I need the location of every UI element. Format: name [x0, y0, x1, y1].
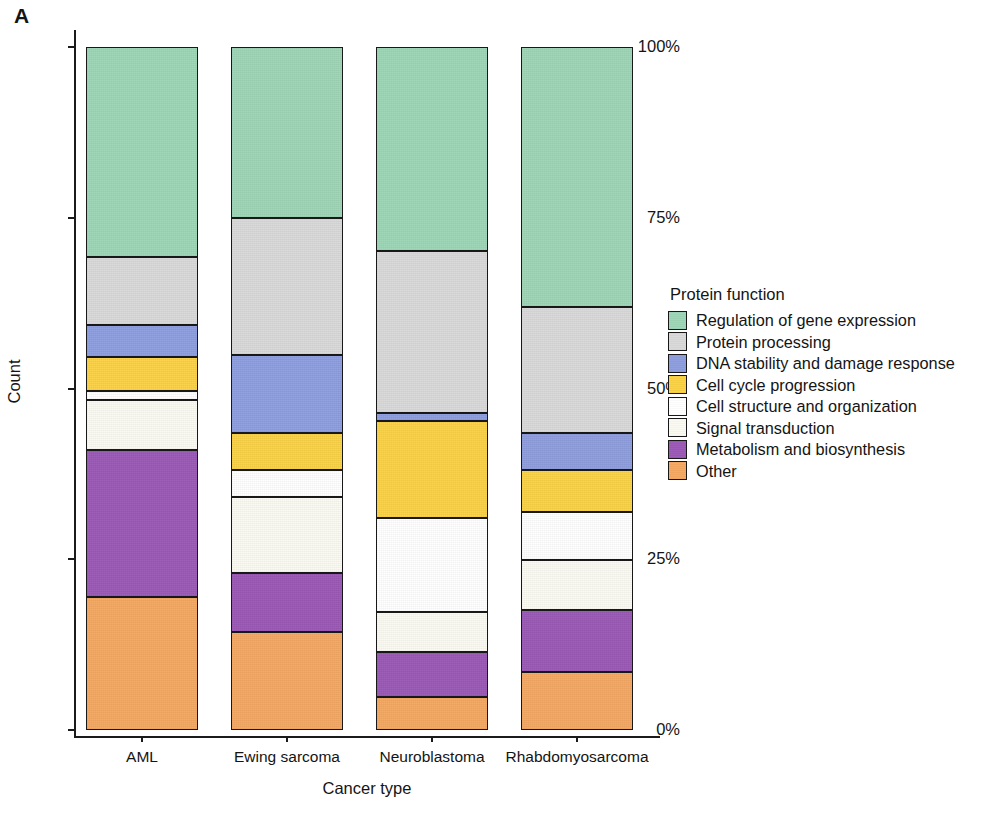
- legend-swatch-icon: [668, 375, 687, 394]
- bar-segment: [521, 47, 633, 307]
- bar-segment: [231, 218, 343, 355]
- x-tick-label: Ewing sarcoma: [234, 748, 340, 766]
- legend-items: Regulation of gene expressionProtein pro…: [668, 310, 980, 482]
- bar-segment: [376, 413, 488, 421]
- legend-swatch-icon: [668, 354, 687, 373]
- legend-label: Signal transduction: [696, 420, 834, 436]
- bar-segment: [376, 47, 488, 251]
- bar-segment: [521, 512, 633, 560]
- legend-item: Cell cycle progression: [668, 374, 980, 396]
- y-tick-mark: [68, 217, 74, 219]
- bar-segment: [86, 391, 198, 400]
- legend-swatch-icon: [668, 461, 687, 480]
- legend-label: Cell structure and organization: [696, 398, 917, 414]
- legend-swatch-icon: [668, 397, 687, 416]
- bar-segment: [376, 697, 488, 730]
- y-tick-mark: [68, 46, 74, 48]
- legend: Protein function Regulation of gene expr…: [668, 286, 980, 482]
- bar-segment: [521, 470, 633, 512]
- bar-segment: [376, 652, 488, 697]
- y-tick-mark: [68, 729, 74, 731]
- legend-label: Regulation of gene expression: [696, 312, 916, 328]
- x-tick-mark: [576, 736, 578, 742]
- x-axis-title: Cancer type: [74, 779, 660, 798]
- bar-ewing-sarcoma: [231, 47, 343, 730]
- bar-segment: [86, 357, 198, 391]
- bar-segment: [86, 597, 198, 730]
- legend-item: Regulation of gene expression: [668, 310, 980, 332]
- x-tick-label: Rhabdomyosarcoma: [505, 748, 648, 766]
- x-tick-label: Neuroblastoma: [379, 748, 484, 766]
- bar-neuroblastoma: [376, 47, 488, 730]
- bar-segment: [521, 672, 633, 730]
- bar-segment: [231, 433, 343, 471]
- legend-title: Protein function: [670, 286, 980, 303]
- legend-item: Protein processing: [668, 331, 980, 353]
- legend-swatch-icon: [668, 311, 687, 330]
- legend-item: Signal transduction: [668, 417, 980, 439]
- bar-segment: [521, 433, 633, 470]
- y-axis-title: Count: [5, 342, 24, 422]
- bar-segment: [521, 307, 633, 433]
- plot-area: 0%25%50%75%100% AMLEwing sarcomaNeurobla…: [0, 0, 680, 790]
- bar-segment: [231, 470, 343, 497]
- legend-label: DNA stability and damage response: [696, 355, 955, 371]
- legend-swatch-icon: [668, 440, 687, 459]
- figure-panel-a: A 0%25%50%75%100% AMLEwing sarcomaNeurob…: [0, 0, 989, 821]
- legend-swatch-icon: [668, 332, 687, 351]
- legend-item: Cell structure and organization: [668, 396, 980, 418]
- legend-item: Metabolism and biosynthesis: [668, 439, 980, 461]
- legend-swatch-icon: [668, 418, 687, 437]
- x-tick-mark: [141, 736, 143, 742]
- bar-segment: [376, 421, 488, 518]
- y-tick-mark: [68, 558, 74, 560]
- bar-segment: [521, 560, 633, 610]
- bar-segment: [231, 355, 343, 433]
- legend-item: DNA stability and damage response: [668, 353, 980, 375]
- bar-segment: [231, 497, 343, 573]
- bar-segment: [86, 450, 198, 597]
- bar-segment: [231, 573, 343, 632]
- bar-segment: [86, 257, 198, 325]
- x-tick-label: AML: [126, 748, 158, 766]
- bar-segment: [231, 47, 343, 218]
- bar-segment: [521, 610, 633, 672]
- y-axis-line: [74, 30, 76, 738]
- bar-segment: [86, 400, 198, 450]
- bar-segment: [376, 251, 488, 413]
- legend-label: Protein processing: [696, 334, 831, 350]
- bar-segment: [86, 325, 198, 357]
- bar-segment: [231, 632, 343, 730]
- x-tick-mark: [431, 736, 433, 742]
- bar-segment: [376, 612, 488, 652]
- bar-rhabdomyosarcoma: [521, 47, 633, 730]
- legend-label: Metabolism and biosynthesis: [696, 441, 905, 457]
- legend-label: Cell cycle progression: [696, 377, 855, 393]
- legend-label: Other: [696, 463, 737, 479]
- x-axis-line: [74, 736, 660, 738]
- bar-segment: [86, 47, 198, 257]
- y-tick-mark: [68, 388, 74, 390]
- bar-segment: [376, 518, 488, 612]
- bar-aml: [86, 47, 198, 730]
- x-tick-mark: [286, 736, 288, 742]
- legend-item: Other: [668, 460, 980, 482]
